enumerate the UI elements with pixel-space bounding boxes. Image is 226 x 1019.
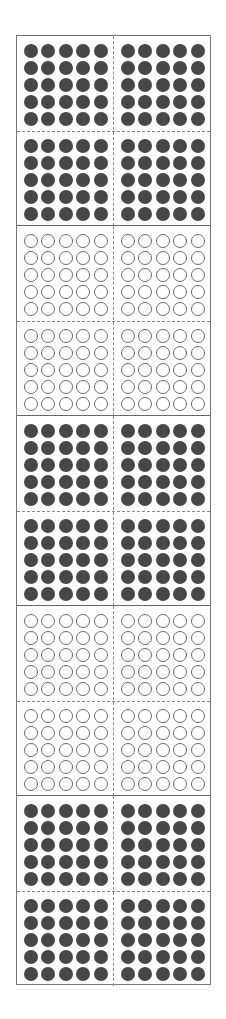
filled-dot: [191, 112, 205, 126]
filled-dot: [156, 207, 170, 221]
empty-dot: [156, 760, 170, 774]
filled-dot: [173, 441, 187, 455]
horizontal-dashed-divider: [17, 131, 210, 132]
empty-dot: [24, 726, 38, 740]
filled-dot: [94, 553, 108, 567]
empty-dot: [191, 346, 205, 360]
empty-dot: [138, 665, 152, 679]
empty-dot: [41, 285, 55, 299]
empty-dot: [24, 363, 38, 377]
empty-dot: [121, 380, 135, 394]
filled-dot: [24, 899, 38, 913]
empty-dot: [191, 234, 205, 248]
filled-dot: [191, 899, 205, 913]
filled-dot: [76, 916, 90, 930]
filled-dot: [191, 872, 205, 886]
filled-dot: [76, 536, 90, 550]
filled-dot: [173, 61, 187, 75]
empty-dot: [59, 285, 73, 299]
filled-dot: [156, 61, 170, 75]
empty-dot: [94, 743, 108, 757]
empty-dot: [138, 743, 152, 757]
empty-dot: [173, 648, 187, 662]
filled-dot: [24, 173, 38, 187]
filled-dot: [156, 804, 170, 818]
filled-dot: [59, 899, 73, 913]
empty-dot: [76, 346, 90, 360]
empty-dot: [191, 380, 205, 394]
filled-dot: [173, 519, 187, 533]
filled-dot: [156, 424, 170, 438]
dot-quadrant-right: [114, 796, 210, 891]
filled-dot: [121, 139, 135, 153]
empty-dot: [121, 251, 135, 265]
empty-dot: [24, 285, 38, 299]
empty-dot: [24, 631, 38, 645]
filled-dot: [41, 587, 55, 601]
empty-dot: [173, 397, 187, 411]
empty-dot: [24, 614, 38, 628]
filled-dot: [173, 78, 187, 92]
filled-dot: [138, 475, 152, 489]
horizontal-dashed-divider: [17, 321, 210, 322]
filled-dot: [59, 967, 73, 981]
filled-dot: [41, 872, 55, 886]
empty-dot: [94, 234, 108, 248]
dot-quadrant-right: [114, 226, 210, 321]
empty-dot: [76, 363, 90, 377]
empty-dot: [59, 397, 73, 411]
filled-dot: [173, 570, 187, 584]
empty-dot: [156, 380, 170, 394]
filled-dot: [138, 855, 152, 869]
filled-dot: [41, 156, 55, 170]
filled-dot: [138, 872, 152, 886]
empty-dot: [59, 614, 73, 628]
empty-dot: [59, 302, 73, 316]
filled-dot: [138, 536, 152, 550]
empty-dot: [41, 329, 55, 343]
empty-dot: [156, 726, 170, 740]
empty-dot: [24, 682, 38, 696]
filled-dot: [138, 933, 152, 947]
empty-dot: [156, 777, 170, 791]
filled-dot: [41, 536, 55, 550]
filled-dot: [94, 933, 108, 947]
filled-dot: [173, 553, 187, 567]
empty-dot: [76, 268, 90, 282]
filled-dot: [76, 458, 90, 472]
filled-dot: [121, 838, 135, 852]
filled-dot: [41, 838, 55, 852]
filled-dot: [59, 519, 73, 533]
filled-dot: [94, 821, 108, 835]
filled-dot: [94, 587, 108, 601]
filled-dot: [173, 95, 187, 109]
empty-dot: [191, 363, 205, 377]
filled-dot: [94, 899, 108, 913]
filled-dot: [76, 424, 90, 438]
filled-dot: [173, 855, 187, 869]
filled-dot: [94, 44, 108, 58]
filled-dot: [173, 156, 187, 170]
empty-dot: [191, 648, 205, 662]
empty-dot: [76, 777, 90, 791]
filled-dot: [191, 821, 205, 835]
filled-dot: [121, 933, 135, 947]
filled-dot: [41, 492, 55, 506]
empty-dot: [138, 726, 152, 740]
empty-dot: [41, 268, 55, 282]
filled-dot: [41, 112, 55, 126]
filled-dot: [94, 424, 108, 438]
filled-dot: [94, 492, 108, 506]
dot-quadrant-left: [17, 891, 113, 986]
filled-dot: [191, 950, 205, 964]
filled-dot: [41, 458, 55, 472]
filled-dot: [24, 950, 38, 964]
filled-dot: [76, 967, 90, 981]
empty-dot: [138, 777, 152, 791]
filled-dot: [24, 156, 38, 170]
filled-dot: [24, 967, 38, 981]
dot-quadrant-left: [17, 796, 113, 891]
empty-dot: [41, 665, 55, 679]
filled-dot: [173, 872, 187, 886]
empty-dot: [191, 285, 205, 299]
